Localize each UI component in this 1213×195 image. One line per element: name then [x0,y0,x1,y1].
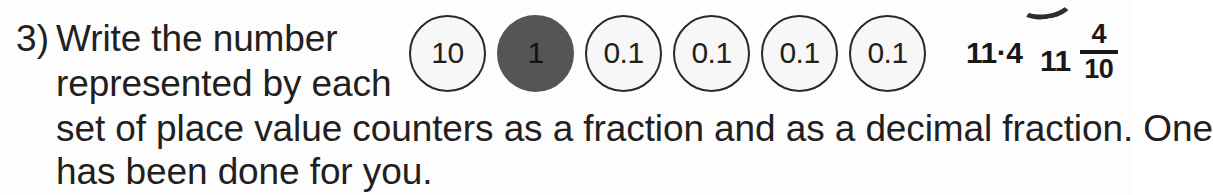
counter-tenths-4: 0.1 [849,15,926,92]
place-value-counters-row: 10 1 0.1 0.1 0.1 0.1 [409,14,926,93]
counter-tens-label: 10 [431,38,463,68]
counter-tenths-1-label: 0.1 [603,38,643,68]
counter-tenths-1: 0.1 [585,15,662,92]
counter-tenths-4-label: 0.1 [867,38,907,68]
answer-fraction-denominator: 10 [1084,55,1113,84]
answer-fraction-whole: 11 [1040,29,1071,76]
counter-tenths-3: 0.1 [761,15,838,92]
answer-fraction-numerator: 4 [1091,20,1106,49]
counter-tenths-2: 0.1 [673,15,750,92]
answer-mixed-fraction: 11 4 10 [1040,20,1118,84]
question-text-line-4: has been done for you. [56,149,432,194]
question-text-line-1: Write the number [56,16,338,61]
counter-tenths-3-label: 0.1 [779,38,819,68]
question-number: 3) [16,16,49,61]
answer-fraction-stack: 4 10 [1080,20,1118,84]
question-text-line-3: set of place value counters as a fractio… [56,106,1213,151]
counter-ones: 1 [497,15,574,92]
answer-decimal-value: 11·4 [966,38,1022,68]
counter-ones-label: 1 [527,38,543,68]
counter-tens: 10 [409,15,486,92]
counter-tenths-2-label: 0.1 [691,38,731,68]
question-text-line-2: represented by each [56,61,391,106]
